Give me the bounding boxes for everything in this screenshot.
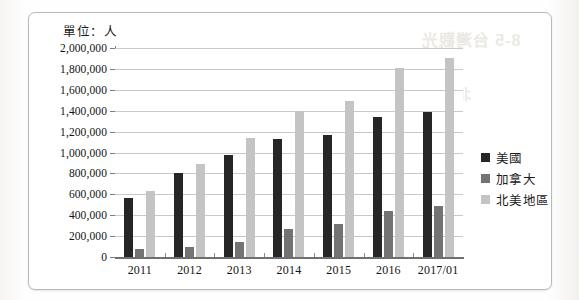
x-axis-category-separator (264, 253, 265, 257)
y-axis-tick-mark (110, 215, 115, 216)
bar-北美地區-2012[interactable] (196, 164, 205, 257)
y-axis-tick-mark (110, 153, 115, 154)
y-axis-tick-mark (110, 90, 115, 91)
legend-label: 北美地區 (496, 190, 550, 209)
bar-加拿大-2014[interactable] (284, 229, 293, 257)
bar-北美地區-2015[interactable] (345, 101, 354, 257)
x-axis-tick-label: 2011 (115, 263, 165, 278)
bar-加拿大-2012[interactable] (185, 247, 194, 257)
bar-美國-2012[interactable] (174, 173, 183, 257)
y-axis-tick-mark (110, 48, 115, 49)
y-axis-tick-mark (110, 132, 115, 133)
bar-北美地區-2011[interactable] (146, 191, 155, 257)
y-axis-tick-mark (110, 173, 115, 174)
bar-group (264, 48, 314, 257)
y-axis-tick-label: 0 (29, 251, 107, 263)
x-axis-category-separator (413, 253, 414, 257)
bar-加拿大-2011[interactable] (135, 249, 144, 257)
bar-group (115, 48, 165, 257)
bar-北美地區-2013[interactable] (246, 138, 255, 257)
y-axis-tick-mark (110, 194, 115, 195)
bar-美國-2011[interactable] (124, 198, 133, 257)
bar-group (214, 48, 264, 257)
x-axis-category-separator (364, 253, 365, 257)
bar-美國-2015[interactable] (323, 135, 332, 257)
y-axis-tick-label: 200,000 (29, 230, 107, 242)
bar-北美地區-2017/01[interactable] (445, 58, 454, 257)
figure-frame: 8-5 台灣觀光 北美地區市場 單位：人 2,000,0001,800,0001… (28, 12, 552, 290)
legend-swatch-icon (481, 195, 490, 204)
bar-group (364, 48, 414, 257)
y-axis-tick-label: 600,000 (29, 188, 107, 200)
bar-美國-2017/01[interactable] (423, 112, 432, 257)
plot-area (115, 48, 463, 257)
y-axis-tick-label: 1,600,000 (29, 84, 107, 96)
y-axis-tick-label: 2,000,000 (29, 42, 107, 54)
x-axis-tick-label: 2012 (165, 263, 215, 278)
y-axis-tick-label: 1,200,000 (29, 126, 107, 138)
y-axis-tick-mark (110, 69, 115, 70)
legend-item-加拿大[interactable]: 加拿大 (481, 168, 551, 189)
bar-加拿大-2013[interactable] (235, 242, 244, 257)
x-axis-category-separator (165, 253, 166, 257)
bar-美國-2013[interactable] (224, 155, 233, 257)
x-axis-tick-label: 2013 (214, 263, 264, 278)
y-axis-tick-label: 1,000,000 (29, 147, 107, 159)
bar-北美地區-2014[interactable] (295, 111, 304, 257)
y-axis-tick-labels: 2,000,0001,800,0001,600,0001,400,0001,20… (29, 13, 107, 289)
legend-item-北美地區[interactable]: 北美地區 (481, 189, 551, 210)
bar-加拿大-2017/01[interactable] (434, 206, 443, 257)
legend-swatch-icon (481, 174, 490, 183)
bar-加拿大-2015[interactable] (334, 224, 343, 257)
y-axis-tick-mark (110, 111, 115, 112)
bar-chart: 單位：人 2,000,0001,800,0001,600,0001,400,00… (29, 13, 551, 289)
x-axis-tick-label: 2014 (264, 263, 314, 278)
chart-legend: 美國加拿大北美地區 (481, 147, 551, 210)
bar-group (314, 48, 364, 257)
x-axis-tick-label: 2016 (364, 263, 414, 278)
y-axis-tick-mark (110, 236, 115, 237)
x-axis-category-separator (314, 253, 315, 257)
legend-swatch-icon (481, 153, 490, 162)
y-axis-tick-label: 400,000 (29, 209, 107, 221)
legend-label: 加拿大 (496, 169, 536, 188)
bar-北美地區-2016[interactable] (395, 68, 404, 257)
x-axis-category-separator (214, 253, 215, 257)
legend-item-美國[interactable]: 美國 (481, 147, 551, 168)
x-axis-tick-label: 2015 (314, 263, 364, 278)
bar-group (413, 48, 463, 257)
x-axis-line (115, 257, 464, 259)
y-axis-tick-label: 1,800,000 (29, 63, 107, 75)
legend-label: 美國 (496, 148, 523, 167)
bar-美國-2016[interactable] (373, 117, 382, 257)
x-axis-tick-label: 2017/01 (413, 263, 463, 278)
bar-美國-2014[interactable] (273, 139, 282, 257)
bar-加拿大-2016[interactable] (384, 211, 393, 257)
y-axis-tick-label: 1,400,000 (29, 105, 107, 117)
y-axis-tick-label: 800,000 (29, 167, 107, 179)
bar-group (165, 48, 215, 257)
y-axis-tick-mark (110, 257, 115, 258)
